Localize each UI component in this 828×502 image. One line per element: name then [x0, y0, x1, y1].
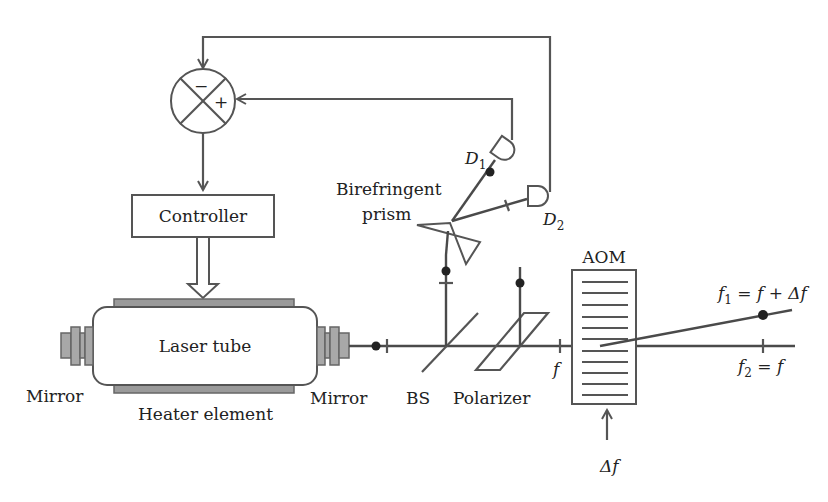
feedback-line-d1: [237, 99, 512, 140]
prism-input-beam: [446, 231, 448, 255]
aom: AOM: [572, 247, 636, 404]
controller-label: Controller: [159, 206, 248, 226]
polarizer-dot: [516, 279, 525, 288]
laser-frequency-stabilization-diagram: − + Controller Laser tube: [0, 0, 828, 502]
detector-d1: [490, 136, 518, 164]
mirror-left: [61, 327, 93, 365]
aom-label: AOM: [581, 247, 626, 267]
mirror-left-label: Mirror: [26, 386, 84, 406]
d2-beam: [452, 199, 527, 221]
d1-beam-dot: [486, 168, 495, 177]
laser-tube: Laser tube: [93, 307, 317, 385]
f1-label: f1 = f + Δf: [716, 283, 810, 307]
bs-label: BS: [406, 388, 430, 408]
birefringent-prism: [417, 223, 480, 264]
laser-tube-label: Laser tube: [159, 336, 251, 356]
summing-junction: − +: [171, 69, 235, 133]
d1-label: D1: [464, 148, 486, 172]
controller-box: Controller: [132, 195, 274, 237]
d2-label: D2: [542, 209, 564, 233]
polarizer-label: Polarizer: [453, 388, 531, 408]
minus-sign: −: [194, 76, 208, 96]
detector-d2: [528, 186, 548, 206]
beam-f-label: f: [551, 359, 562, 379]
heater-label: Heater element: [138, 404, 273, 424]
prism-label-line2: prism: [362, 204, 411, 224]
delta-f-label: Δf: [599, 456, 621, 476]
polarization-dot: [372, 342, 381, 351]
f2-label: f2 = f: [736, 356, 786, 380]
plus-sign: +: [214, 92, 228, 112]
mirror-right-label: Mirror: [310, 388, 368, 408]
heater-element-bottom: [114, 385, 294, 393]
feedback-line-d2: [203, 37, 550, 192]
beam-splitter: [422, 313, 478, 372]
prism-label-line1: Birefringent: [336, 179, 442, 199]
heater-element-top: [114, 299, 294, 307]
mirror-right: [317, 327, 349, 365]
f1-dot: [758, 310, 768, 320]
reflected-beam-dot: [442, 267, 451, 276]
polarizer: [476, 313, 548, 370]
control-signal-arrow: [188, 238, 218, 298]
